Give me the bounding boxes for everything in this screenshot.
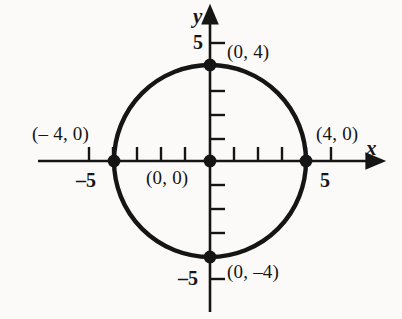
point-left — [108, 155, 121, 168]
y-tick-label-neg5: –5 — [178, 268, 198, 288]
y-axis-label: y — [193, 6, 202, 27]
x-axis-label: x — [366, 138, 377, 159]
point-label-origin: (0, 0) — [146, 168, 188, 187]
point-label-left: (– 4, 0) — [32, 124, 89, 143]
point-bottom — [204, 251, 217, 264]
point-label-bottom: (0, –4) — [227, 262, 279, 281]
point-right — [300, 155, 313, 168]
point-label-top: (0, 4) — [227, 42, 269, 61]
x-tick-label-neg5: –5 — [76, 170, 96, 190]
x-tick-label-5: 5 — [320, 170, 330, 190]
circle-graph-figure: (0, 4) (4, 0) (– 4, 0) (0, –4) (0, 0) 5 … — [0, 0, 402, 319]
point-top — [204, 59, 217, 72]
point-label-right: (4, 0) — [316, 124, 358, 143]
point-origin — [204, 155, 217, 168]
y-tick-label-5: 5 — [193, 32, 203, 52]
